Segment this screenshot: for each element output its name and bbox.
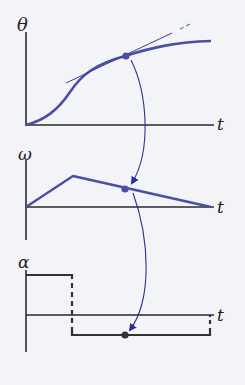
theta-curve xyxy=(26,41,211,125)
alpha-axis-label: α xyxy=(18,252,30,272)
theta-point xyxy=(122,52,129,59)
alpha-point xyxy=(121,331,128,338)
omega-axis-label: ω xyxy=(18,144,32,164)
theta-axis-label: θ xyxy=(17,14,28,35)
kinematics-diagram: θ t ω t α t xyxy=(0,0,245,385)
omega-curve xyxy=(26,176,211,207)
arrow-omega-to-alpha xyxy=(130,193,146,330)
alpha-negative-segment xyxy=(72,328,210,335)
tangent-line-dashed xyxy=(180,23,192,29)
omega-graph: ω t xyxy=(18,144,224,240)
diagram-canvas: θ t ω t α t xyxy=(0,0,245,385)
alpha-positive-segment xyxy=(26,275,72,279)
theta-graph: θ t xyxy=(17,14,224,134)
theta-t-label: t xyxy=(217,114,224,134)
omega-point xyxy=(121,185,128,192)
tangent-line xyxy=(66,33,172,83)
alpha-graph: α t xyxy=(18,252,224,352)
arrow-theta-to-omega xyxy=(131,60,145,183)
omega-t-label: t xyxy=(217,197,224,217)
alpha-t-label: t xyxy=(217,305,224,325)
